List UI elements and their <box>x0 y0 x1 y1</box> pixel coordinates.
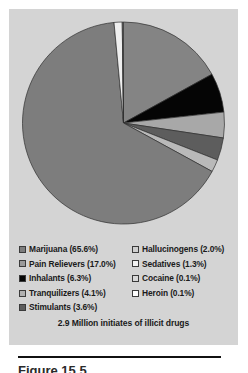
pie-slices <box>22 22 224 224</box>
legend-column-left: Marijuana (65.6%) Pain Relievers (17.0%)… <box>19 242 132 315</box>
legend-label-sedatives: Sedatives (1.3%) <box>142 260 207 268</box>
legend-swatch-marijuana <box>19 246 26 253</box>
pie-chart-area <box>9 15 238 237</box>
legend-item-stimulants[interactable]: Stimulants (3.6%) <box>19 300 132 315</box>
legend-item-hallucinogens[interactable]: Hallucinogens (2.0%) <box>132 242 231 257</box>
chart-caption: 2.9 Million initiates of illicit drugs <box>9 318 238 328</box>
figure-panel: Marijuana (65.6%) Pain Relievers (17.0%)… <box>9 9 238 345</box>
chart-legend: Marijuana (65.6%) Pain Relievers (17.0%)… <box>19 242 231 315</box>
legend-label-hallucinogens: Hallucinogens (2.0%) <box>142 245 224 253</box>
legend-swatch-tranquilizers <box>19 290 26 297</box>
legend-label-cocaine: Cocaine (0.1%) <box>142 274 200 282</box>
legend-label-marijuana: Marijuana (65.6%) <box>29 245 98 253</box>
legend-swatch-stimulants <box>19 304 26 311</box>
figure-caption: Figure 15.5 <box>18 364 221 373</box>
legend-label-inhalants: Inhalants (6.3%) <box>29 274 91 282</box>
pie-chart <box>9 15 238 231</box>
legend-label-pain-relievers: Pain Relievers (17.0%) <box>29 260 116 268</box>
legend-swatch-cocaine <box>132 275 139 282</box>
legend-item-pain-relievers[interactable]: Pain Relievers (17.0%) <box>19 257 132 272</box>
legend-swatch-heroin <box>132 290 139 297</box>
legend-item-marijuana[interactable]: Marijuana (65.6%) <box>19 242 132 257</box>
legend-swatch-pain-relievers <box>19 260 26 267</box>
legend-swatch-hallucinogens <box>132 246 139 253</box>
legend-item-heroin[interactable]: Heroin (0.1%) <box>132 286 231 301</box>
legend-item-tranquilizers[interactable]: Tranquilizers (4.1%) <box>19 286 132 301</box>
legend-column-right: Hallucinogens (2.0%) Sedatives (1.3%) Co… <box>132 242 231 315</box>
legend-item-sedatives[interactable]: Sedatives (1.3%) <box>132 257 231 272</box>
legend-label-stimulants: Stimulants (3.6%) <box>29 303 97 311</box>
legend-item-cocaine[interactable]: Cocaine (0.1%) <box>132 271 231 286</box>
legend-swatch-inhalants <box>19 275 26 282</box>
legend-item-inhalants[interactable]: Inhalants (6.3%) <box>19 271 132 286</box>
legend-label-tranquilizers: Tranquilizers (4.1%) <box>29 289 106 297</box>
figure-divider-rule <box>18 356 221 358</box>
legend-label-heroin: Heroin (0.1%) <box>142 289 194 297</box>
legend-swatch-sedatives <box>132 260 139 267</box>
